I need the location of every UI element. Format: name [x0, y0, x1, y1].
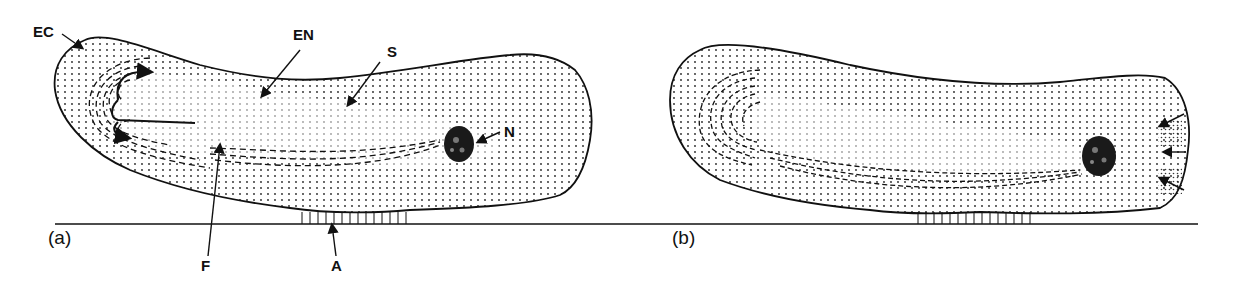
figure: EC EN S N F A (a) (b)	[0, 0, 1244, 282]
panel-label-a: (a)	[48, 228, 71, 247]
label-n: N	[504, 124, 515, 139]
label-s: S	[387, 44, 397, 59]
cell-b	[670, 45, 1189, 224]
panel-label-b: (b)	[672, 228, 695, 247]
label-en: EN	[293, 27, 314, 42]
label-ec: EC	[33, 24, 54, 39]
diagram-canvas	[0, 0, 1244, 282]
label-a: A	[331, 258, 342, 273]
label-f: F	[201, 258, 210, 273]
cell-a	[55, 34, 592, 256]
